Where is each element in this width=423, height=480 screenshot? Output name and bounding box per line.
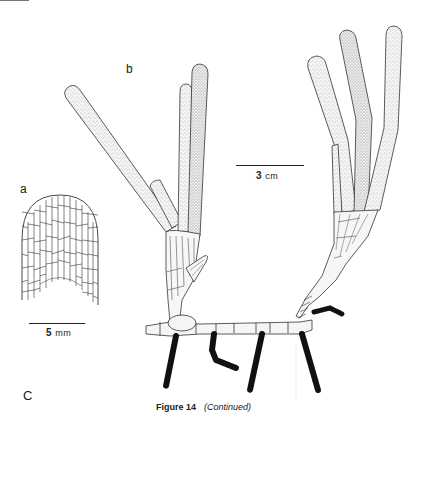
figure-caption: Figure 14(Continued) [156, 402, 251, 412]
right-shoot [296, 26, 402, 318]
figure-continued-note: (Continued) [204, 402, 251, 412]
left-shoot [65, 64, 208, 322]
rhizome [146, 315, 312, 336]
figure-number: Figure 14 [156, 402, 196, 412]
panel-a-cell-apex [22, 195, 98, 305]
